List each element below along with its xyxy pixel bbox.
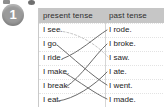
- present-tense-cell[interactable]: I go.: [43, 37, 59, 51]
- table-row: I see. I rode.: [39, 23, 164, 37]
- page-top-strip: [0, 0, 164, 4]
- table-header-row: present tense past tense: [39, 8, 164, 23]
- table-row: I break. I went.: [39, 79, 164, 93]
- exercise-number-badge: 1: [2, 4, 24, 26]
- column-header-present-tense: present tense: [43, 8, 93, 23]
- past-tense-cell[interactable]: I went.: [109, 79, 133, 93]
- exercise-number-label: 1: [2, 4, 24, 26]
- cropped-badge-fragment: [28, 0, 35, 5]
- past-tense-cell[interactable]: I rode.: [109, 23, 132, 37]
- verb-tense-matching-table: present tense past tense I see. I rode. …: [38, 8, 164, 107]
- past-tense-cell[interactable]: I broke.: [109, 37, 136, 51]
- past-tense-cell[interactable]: I ate.: [109, 65, 127, 79]
- table-row: I ride. I saw.: [39, 51, 164, 65]
- table-row: I go. I broke.: [39, 37, 164, 51]
- present-tense-cell[interactable]: I ride.: [43, 51, 63, 65]
- table-row: I eat. I made.: [39, 93, 164, 107]
- table-row: I make. I ate.: [39, 65, 164, 79]
- past-tense-cell[interactable]: I saw.: [109, 51, 129, 65]
- present-tense-cell[interactable]: I eat.: [43, 93, 61, 107]
- present-tense-cell[interactable]: I make.: [43, 65, 69, 79]
- column-header-past-tense: past tense: [109, 8, 147, 23]
- present-tense-cell[interactable]: I see.: [43, 23, 63, 37]
- past-tense-cell[interactable]: I made.: [109, 93, 136, 107]
- present-tense-cell[interactable]: I break.: [43, 79, 70, 93]
